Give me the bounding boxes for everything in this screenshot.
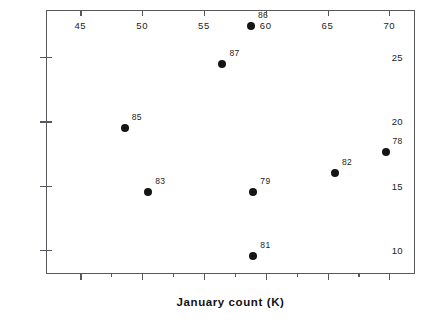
x-axis-label: January count (K) [46, 296, 415, 308]
data-point-label: 82 [342, 157, 352, 167]
data-point-marker [144, 188, 152, 196]
data-point-marker [249, 252, 257, 260]
data-point-label: 81 [260, 240, 270, 250]
x-axis-tick-top [204, 11, 205, 16]
scatter-chart-figure: Breeding pairs West Med. (K) 78798182838… [0, 0, 426, 320]
plot-area: 7879818283858687 45505560657010152025 [46, 10, 415, 274]
x-axis-minor-tick [173, 273, 174, 277]
data-point-marker [121, 124, 129, 132]
data-point-marker [218, 60, 226, 68]
data-point-label: 79 [260, 176, 270, 186]
x-axis-tick-top [80, 11, 81, 16]
y-axis-tick-label: 20 [392, 116, 403, 127]
x-axis-minor-tick [235, 273, 236, 277]
y-axis-tick-inner [47, 250, 52, 251]
x-axis-tick-label: 55 [198, 20, 210, 31]
x-axis-tick-label: 45 [74, 20, 86, 31]
x-axis-tick [80, 273, 81, 280]
data-point-label: 85 [132, 112, 142, 122]
y-axis-tick [40, 186, 47, 187]
y-axis-tick-label: 15 [392, 180, 403, 191]
x-axis-tick [204, 273, 205, 280]
y-axis-tick-inner [47, 186, 52, 187]
y-axis-tick-label: 10 [392, 244, 403, 255]
x-axis-minor-tick [297, 273, 298, 277]
x-axis-tick-top [142, 11, 143, 16]
x-axis-minor-tick [358, 273, 359, 277]
y-axis-tick-label: 25 [392, 52, 403, 63]
data-point-label: 78 [393, 136, 403, 146]
data-point-marker [331, 169, 339, 177]
y-axis-tick [40, 121, 47, 122]
y-axis-tick-inner [47, 57, 52, 58]
x-axis-tick-label: 50 [136, 20, 148, 31]
x-axis-tick [328, 273, 329, 280]
x-axis-tick [266, 273, 267, 280]
data-point-label: 87 [229, 48, 239, 58]
x-axis-tick-label: 60 [260, 20, 272, 31]
y-axis-tick [40, 57, 47, 58]
x-axis-tick-label: 65 [322, 20, 334, 31]
x-axis-minor-tick [111, 273, 112, 277]
data-point-label: 83 [155, 176, 165, 186]
x-axis-tick-label: 70 [383, 20, 395, 31]
x-axis-tick-top [389, 11, 390, 16]
data-point-marker [249, 188, 257, 196]
data-points-layer: 7879818283858687 [47, 11, 414, 273]
data-point-marker [382, 148, 390, 156]
x-axis-tick [142, 273, 143, 280]
x-axis-tick-top [328, 11, 329, 16]
y-axis-tick [40, 250, 47, 251]
y-axis-tick-inner [47, 121, 52, 122]
data-point-marker [247, 22, 255, 30]
x-axis-tick [389, 273, 390, 280]
x-axis-tick-top [266, 11, 267, 16]
